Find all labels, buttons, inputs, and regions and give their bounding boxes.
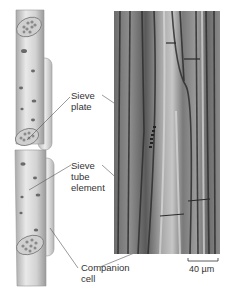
label-line: tube <box>71 171 105 182</box>
label-line: Sieve <box>71 160 105 171</box>
sieve-tube-element-upper <box>13 10 45 149</box>
label-line: plate <box>71 101 95 112</box>
label-line: element <box>71 182 105 193</box>
scale-bar-label: 40 µm <box>189 264 214 274</box>
label-companion-cell: Companion cell <box>81 262 130 284</box>
sieve-tube-element-lower <box>14 150 46 286</box>
label-line: cell <box>81 273 130 284</box>
label-sieve-tube-element: Sieve tube element <box>71 160 105 193</box>
label-line: Sieve <box>71 90 95 101</box>
phloem-figure: Sieve plate Sieve tube element Companion… <box>0 0 229 294</box>
label-sieve-plate: Sieve plate <box>71 90 95 112</box>
micrograph <box>114 11 220 254</box>
label-line: Companion <box>81 262 130 273</box>
